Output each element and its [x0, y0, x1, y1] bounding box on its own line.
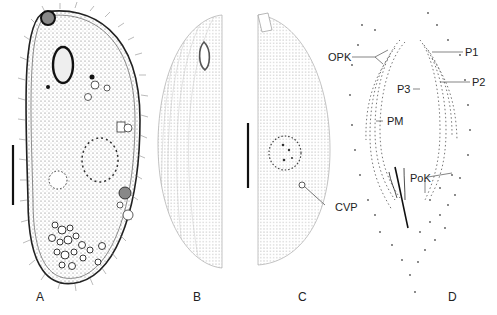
figure-canvas	[0, 0, 497, 315]
cvp-circle	[299, 182, 305, 188]
panel-label-b: B	[193, 291, 201, 303]
panel-label-a: A	[36, 291, 44, 303]
contractile-vacuole	[49, 171, 67, 189]
panel-label-d: D	[448, 291, 457, 303]
vacuole	[41, 11, 55, 25]
label-p3: P3	[397, 84, 410, 95]
label-p2: P2	[472, 77, 485, 88]
label-pok: PoK	[410, 173, 431, 184]
label-p1: P1	[465, 47, 478, 58]
label-opk: OPK	[328, 52, 351, 63]
label-cvp: CVP	[335, 202, 358, 213]
panel-label-c: C	[298, 291, 307, 303]
label-pm: PM	[387, 116, 404, 127]
macronucleus	[53, 47, 73, 83]
panel-c-dorsal	[258, 13, 330, 265]
oral-apparatus	[200, 42, 210, 70]
panel-a-cell	[18, 2, 148, 291]
panel-b-ventral	[158, 15, 222, 268]
panel-d-oral-detail	[349, 12, 471, 293]
